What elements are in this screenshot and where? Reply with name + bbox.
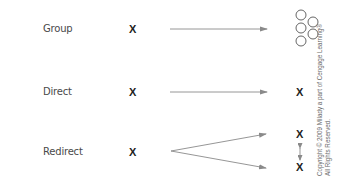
row-label-group: Group [43, 23, 72, 35]
target-mark-redirect-upper: X [296, 128, 303, 140]
row-label-redirect: Redirect [43, 146, 83, 158]
diagram-canvas: Group X Direct X X Redirect X X X Copyri… [0, 0, 360, 182]
redirect-arrow-lower [171, 151, 266, 168]
target-mark-direct: X [296, 86, 303, 98]
group-circles-icon [296, 10, 318, 46]
source-mark-direct: X [129, 86, 136, 98]
copyright-notice: Copyright © 2009 Milady a part of Cengag… [316, 24, 331, 176]
row-label-direct: Direct [43, 86, 72, 98]
source-mark-redirect: X [129, 146, 136, 158]
copyright-line-1: Copyright © 2009 Milady a part of Cengag… [316, 24, 324, 176]
target-mark-redirect-lower: X [296, 161, 303, 173]
source-mark-group: X [129, 23, 136, 35]
copyright-line-2: All Rights Reserved. [324, 24, 332, 176]
redirect-arrow-upper [171, 134, 266, 151]
